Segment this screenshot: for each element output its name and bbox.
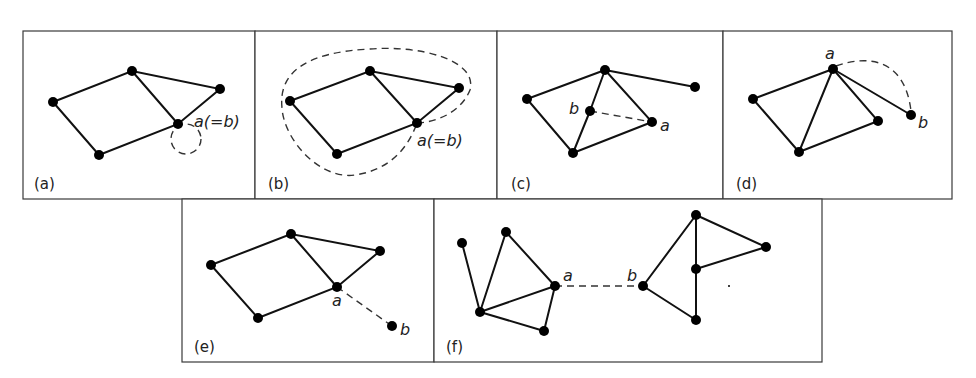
panel-b-frame (255, 31, 497, 199)
vertex-label-a-eq-b: a(=b) (417, 131, 463, 150)
panel-label-a: (a) (34, 175, 55, 193)
panel-label-c: (c) (511, 175, 531, 193)
vertex-label-b: b (918, 113, 928, 132)
vertex-label-a: a (660, 116, 670, 135)
vertex-label-a-eq-b: a(=b) (194, 112, 240, 131)
vertex-label-b: b (400, 320, 410, 339)
panel-label-b: (b) (268, 175, 289, 193)
vertex-label-a: a (825, 44, 835, 63)
vertex-label-a: a (332, 291, 342, 310)
panel-c-frame (497, 31, 723, 199)
panel-e-frame (182, 199, 434, 362)
graph-figure: a(=b) (a) a(=b) (b) b a (c) (0, 0, 976, 378)
vertex-label-b: b (627, 266, 637, 285)
panel-label-e: (e) (194, 338, 215, 356)
vertex-label-a: a (563, 266, 573, 285)
panel-label-f: (f) (446, 338, 463, 356)
panel-label-d: (d) (736, 175, 757, 193)
vertex-label-b: b (569, 99, 579, 118)
